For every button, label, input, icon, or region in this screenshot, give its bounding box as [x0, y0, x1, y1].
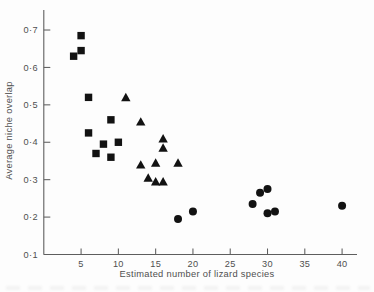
- data-point-triangle: [173, 158, 182, 166]
- data-point-square: [107, 154, 114, 161]
- data-point-square: [85, 94, 92, 101]
- y-tick-label: 0·2: [24, 212, 38, 222]
- x-tick-label: 30: [262, 259, 273, 269]
- x-tick-label: 40: [337, 259, 348, 269]
- data-point-circle: [271, 207, 279, 215]
- y-tick-label: 0·3: [24, 175, 38, 185]
- data-point-square: [77, 47, 84, 54]
- y-tick-label: 0·7: [24, 25, 38, 35]
- data-point-square: [70, 53, 77, 60]
- x-tick-label: 10: [113, 259, 124, 269]
- y-tick-label: 0·1: [24, 250, 38, 260]
- data-point-square: [77, 32, 84, 39]
- data-point-square: [85, 129, 92, 136]
- data-point-triangle: [158, 177, 167, 185]
- data-point-triangle: [144, 173, 153, 181]
- scatter-chart: 0·10·20·30·40·50·60·7510152025303540 Est…: [0, 0, 374, 292]
- x-tick-label: 15: [150, 259, 161, 269]
- data-point-circle: [264, 209, 272, 217]
- scatter-plot-figure: 0·10·20·30·40·50·60·7510152025303540 Est…: [0, 0, 374, 292]
- data-point-circle: [189, 207, 197, 215]
- data-point-circle: [256, 189, 264, 197]
- data-point-circle: [249, 200, 257, 208]
- y-tick-label: 0·6: [24, 63, 38, 73]
- data-point-circle: [264, 185, 272, 193]
- y-tick-label: 0·4: [24, 137, 38, 147]
- data-point-square: [107, 116, 114, 123]
- data-point-circle: [338, 202, 346, 210]
- data-point-square: [100, 140, 107, 147]
- data-point-square: [115, 139, 122, 146]
- x-tick-label: 35: [299, 259, 310, 269]
- y-axis-title: Average niche overlap: [4, 81, 14, 180]
- data-point-triangle: [136, 160, 145, 168]
- data-point-triangle: [121, 93, 130, 101]
- x-tick-label: 25: [225, 259, 236, 269]
- x-tick-label: 20: [188, 259, 199, 269]
- x-tick-label: 5: [78, 259, 83, 269]
- data-point-triangle: [158, 134, 167, 142]
- data-point-triangle: [158, 143, 167, 151]
- y-tick-label: 0·5: [24, 100, 38, 110]
- data-point-square: [92, 150, 99, 157]
- data-point-triangle: [151, 158, 160, 166]
- data-point-circle: [174, 215, 182, 223]
- plot-layer: 0·10·20·30·40·50·60·7510152025303540: [24, 10, 357, 269]
- x-axis-title: Estimated number of lizard species: [120, 269, 275, 279]
- data-point-triangle: [136, 117, 145, 125]
- scan-artifact: [6, 286, 370, 290]
